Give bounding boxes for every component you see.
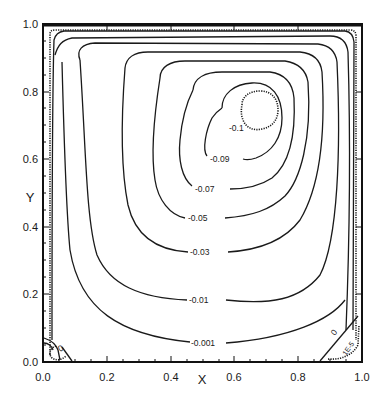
contour-label-001: -0.01: [189, 295, 209, 305]
corner-label-bottom-left: 0: [56, 343, 65, 354]
x-tick-4: 0.8: [290, 371, 305, 383]
x-tick-5: 1.0: [354, 371, 369, 383]
x-tick-3: 0.6: [226, 371, 241, 383]
contour-level-005: [153, 61, 309, 218]
contour-level-001: [79, 43, 339, 302]
contour-plot: 0 0 1E-5 -0.1 -0.09 -0.07 -0.05 -0.03 -0…: [0, 0, 386, 401]
contour-labels: -0.1 -0.09 -0.07 -0.05 -0.03 -0.01 -0.00…: [188, 123, 244, 348]
x-tick-2: 0.4: [163, 371, 178, 383]
corner-label-bottom-right-b: 1E-5: [341, 340, 355, 356]
contour-label-009: -0.09: [210, 154, 230, 164]
contour-level-01: [241, 91, 278, 130]
contour-lines: [44, 30, 359, 361]
y-tick-5: 1.0: [23, 18, 38, 30]
contour-label-01: -0.1: [229, 123, 244, 133]
y-axis-ticks: [43, 41, 362, 362]
contour-label-0001: -0.001: [191, 338, 215, 348]
y-tick-3: 0.6: [23, 153, 38, 165]
corner-eddy-bottom-right: [320, 316, 358, 361]
x-axis-label: X: [198, 372, 207, 387]
y-tick-0: 0.0: [23, 356, 38, 368]
y-tick-2: 0.4: [23, 221, 38, 233]
contour-label-003: -0.03: [190, 247, 210, 257]
y-axis-label: Y: [26, 190, 35, 205]
x-tick-0: 0.0: [35, 371, 50, 383]
contour-label-005: -0.05: [188, 213, 208, 223]
y-tick-1: 0.2: [23, 288, 38, 300]
x-tick-1: 0.2: [99, 371, 114, 383]
contour-label-007: -0.07: [195, 184, 215, 194]
y-tick-4: 0.8: [23, 86, 38, 98]
corner-label-bottom-right-a: 0: [328, 327, 339, 337]
